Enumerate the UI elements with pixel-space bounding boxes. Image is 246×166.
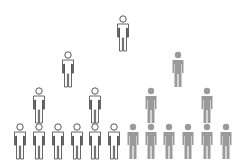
person-filled-icon [199,123,215,161]
person-outline-icon [60,51,76,89]
person-filled-icon [143,123,159,161]
person-filled-icon [218,123,234,161]
person-filled-icon [199,87,215,125]
person-outline-icon [87,87,103,125]
person-outline-icon [31,87,47,125]
person-outline-icon [12,123,28,161]
person-filled-icon [161,123,177,161]
person-filled-icon [143,87,159,125]
person-filled-icon [125,123,141,161]
person-outline-icon [106,123,122,161]
person-filled-icon [170,51,186,89]
person-outline-icon [87,123,103,161]
person-outline-icon [69,123,85,161]
person-outline-icon [115,15,131,53]
person-outline-icon [31,123,47,161]
person-pyramid-diagram [0,0,246,166]
person-filled-icon [180,123,196,161]
person-outline-icon [50,123,66,161]
